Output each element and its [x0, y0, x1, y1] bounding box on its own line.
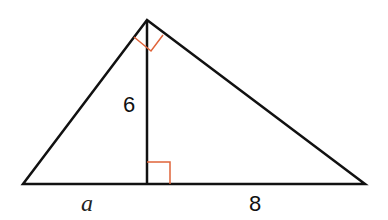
triangle-diagram: 6 a 8: [0, 0, 388, 220]
right-segment-label: 8: [249, 191, 261, 216]
left-segment-label: a: [81, 190, 93, 216]
right-angle-marker-foot: [147, 162, 170, 184]
triangle: [23, 20, 365, 184]
right-angle-marker-apex: [134, 35, 163, 51]
altitude-label: 6: [123, 92, 135, 117]
